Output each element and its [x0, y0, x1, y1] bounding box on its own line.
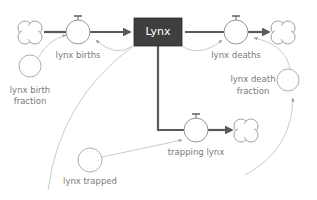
label-lynx-birth-fraction-line1: lynx birth: [0, 85, 60, 96]
sink-cloud-trapping-icon: [234, 119, 258, 142]
source-cloud-icon: [18, 21, 42, 44]
label-lynx-trapped: lynx trapped: [60, 176, 120, 187]
stock-lynx-label: Lynx: [134, 18, 182, 46]
aux-lynx-death-fraction[interactable]: [277, 69, 299, 91]
valve-trapping-lynx[interactable]: [184, 114, 208, 142]
label-lynx-death-fraction-line1: lynx death: [228, 74, 278, 85]
label-lynx-birth-fraction-line2: fraction: [0, 96, 60, 107]
aux-lynx-trapped[interactable]: [78, 148, 102, 172]
sink-cloud-deaths-icon: [271, 21, 295, 44]
label-lynx-deaths: lynx deaths: [206, 50, 266, 61]
valve-lynx-births[interactable]: [66, 16, 90, 44]
label-lynx-death-fraction-line2: fraction: [228, 86, 278, 97]
valve-lynx-deaths[interactable]: [224, 16, 248, 44]
pipe-lynx-to-trapping: [158, 46, 184, 130]
aux-lynx-birth-fraction[interactable]: [19, 55, 41, 77]
label-lynx-births: lynx births: [48, 50, 108, 61]
label-trapping-lynx: trapping lynx: [161, 147, 231, 158]
